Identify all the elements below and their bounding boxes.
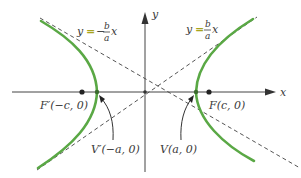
svg-text:y: y xyxy=(76,25,84,38)
svg-text:x: x xyxy=(111,25,118,38)
asymptote-negative-label: y = − b a x xyxy=(76,21,118,43)
right-focus-label: F(c, 0) xyxy=(208,99,245,112)
hyperbola-left-branch xyxy=(38,21,97,168)
equals-sign: = xyxy=(195,23,204,36)
origin-point xyxy=(143,90,147,94)
hyperbola-diagram: y x y = − b a x y = b a x F′(−c, 0) F(c,… xyxy=(0,0,301,178)
right-vertex-label: V(a, 0) xyxy=(160,143,197,156)
svg-text:a: a xyxy=(205,31,210,41)
x-axis-label: x xyxy=(280,86,287,99)
right-vertex-point xyxy=(194,90,198,94)
svg-text:x: x xyxy=(212,23,219,36)
y-axis-arrow-icon xyxy=(142,12,149,24)
asymptote-positive-label: y = b a x xyxy=(185,19,219,41)
left-vertex-label: V′(−a, 0) xyxy=(91,143,140,156)
right-focus-point xyxy=(206,89,211,94)
hyperbola-curve xyxy=(38,19,254,168)
left-vertex-leader xyxy=(101,98,113,140)
svg-text:y: y xyxy=(185,23,193,36)
svg-text:a: a xyxy=(104,33,109,43)
equals-sign: = xyxy=(86,25,95,38)
left-vertex-point xyxy=(95,90,99,94)
left-focus-point xyxy=(79,89,84,94)
x-axis-arrow-icon xyxy=(265,89,276,96)
y-axis-label: y xyxy=(151,8,159,21)
right-vertex-leader xyxy=(181,98,192,140)
left-focus-label: F′(−c, 0) xyxy=(39,99,88,112)
svg-text:b: b xyxy=(104,21,110,31)
svg-text:b: b xyxy=(205,19,211,29)
